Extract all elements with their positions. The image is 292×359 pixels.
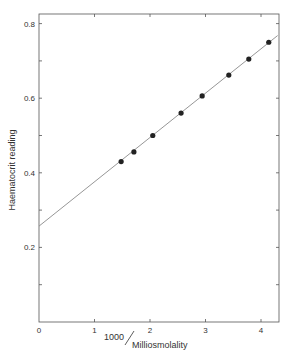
data-point [226, 72, 231, 77]
data-point [150, 133, 155, 138]
x-axis-label: 1000 Milliosmolality [104, 331, 188, 350]
x-tick-label: 2 [148, 326, 153, 335]
fit-line [39, 36, 278, 227]
x-axis-ticks: 01234 [37, 14, 264, 335]
data-point [119, 159, 124, 164]
data-point [266, 40, 271, 45]
plot-frame [39, 14, 279, 322]
y-tick-label: 0.6 [24, 94, 36, 103]
chart: 0.20.40.60.8 01234 Haematocrit reading 1… [0, 0, 292, 359]
x-tick-label: 4 [259, 326, 264, 335]
x-axis-label-numerator: 1000 [104, 332, 124, 342]
y-tick-label: 0.2 [24, 243, 36, 252]
y-axis-label: Haematocrit reading [7, 129, 17, 210]
data-point [131, 149, 136, 154]
x-axis-label-denominator: Milliosmolality [132, 340, 188, 350]
data-point [178, 111, 183, 116]
data-point [200, 93, 205, 98]
y-axis-ticks: 0.20.40.60.8 [24, 20, 279, 285]
data-point [246, 56, 251, 61]
x-tick-label: 3 [203, 326, 208, 335]
y-tick-label: 0.8 [24, 20, 36, 29]
axes-box [39, 14, 279, 322]
y-tick-label: 0.4 [24, 169, 36, 178]
x-tick-label: 0 [37, 326, 42, 335]
x-tick-label: 1 [92, 326, 97, 335]
